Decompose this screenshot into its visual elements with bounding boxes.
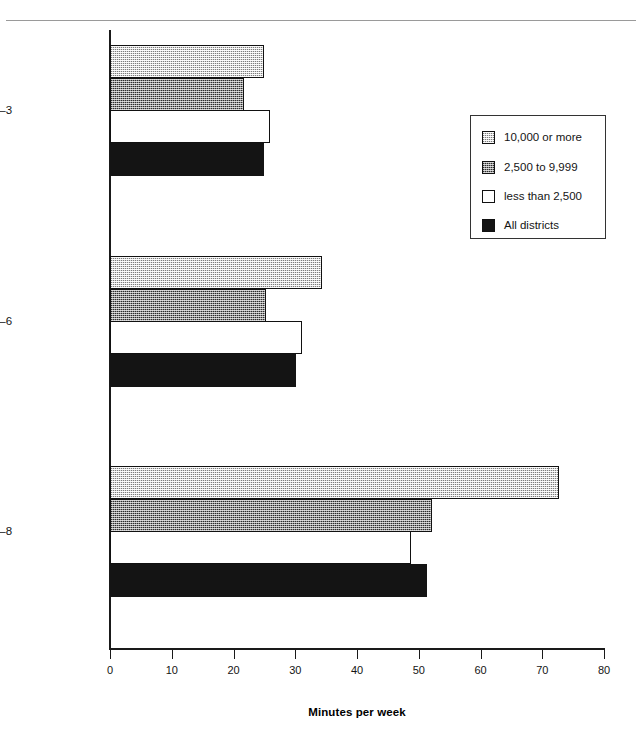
bar-grades-4-6-all-districts [110,354,296,387]
x-tick-60 [481,650,482,659]
bar-grades-7-8-10000-or-more [110,466,559,499]
x-tick-label-0: 0 [90,664,130,677]
x-tick-label-20: 20 [214,664,254,677]
legend-label-10000-or-more: 10,000 or more [504,131,582,144]
legend-swatch-less-than-2500 [482,190,495,203]
bar-grades-4-6-less-than-2500 [110,321,302,354]
legend-label-all-districts: All districts [504,219,559,232]
bar-grades-4-6-10000-or-more [110,256,322,289]
x-tick-40 [357,650,358,659]
bar-grades-4-6-2500-to-9999 [110,289,266,322]
x-tick-label-50: 50 [399,664,439,677]
x-tick-label-40: 40 [337,664,377,677]
bar-grades-7-8-less-than-2500 [110,531,411,564]
category-label-grades-1-3: Grades 1–3 [0,103,82,117]
bar-grades-1-3-all-districts [110,143,264,176]
x-tick-label-10: 10 [152,664,192,677]
x-tick-80 [604,650,605,659]
x-tick-70 [542,650,543,659]
legend-item-less-than-2500: less than 2,500 [482,188,582,204]
x-tick-30 [295,650,296,659]
header-divider [6,20,636,21]
x-tick-label-80: 80 [584,664,624,677]
x-tick-0 [110,650,111,659]
legend-item-all-districts: All districts [482,217,559,233]
bar-grades-7-8-2500-to-9999 [110,499,432,532]
bar-grades-7-8-all-districts [110,564,427,597]
legend-item-10000-or-more: 10,000 or more [482,129,582,145]
x-axis-title: Minutes per week [110,706,604,718]
category-label-grades-4-6: Grades 4–6 [0,314,82,328]
legend-swatch-10000-or-more [482,131,495,144]
bar-grades-1-3-10000-or-more [110,45,264,78]
x-tick-label-60: 60 [461,664,501,677]
x-tick-label-70: 70 [522,664,562,677]
legend-label-less-than-2500: less than 2,500 [504,190,582,203]
legend: 10,000 or more 2,500 to 9,999 less than … [470,115,606,239]
x-tick-20 [234,650,235,659]
legend-item-2500-to-9999: 2,500 to 9,999 [482,159,578,175]
legend-label-2500-to-9999: 2,500 to 9,999 [504,161,578,174]
legend-swatch-2500-to-9999 [482,161,495,174]
x-tick-50 [419,650,420,659]
x-tick-label-30: 30 [275,664,315,677]
category-label-grades-7-8: Grades 7–8 [0,524,82,538]
legend-swatch-all-districts [482,219,495,232]
bar-grades-1-3-less-than-2500 [110,110,270,143]
bar-grades-1-3-2500-to-9999 [110,78,244,111]
x-tick-10 [172,650,173,659]
bar-chart-figure: Grades 1–3 Grades 4–6 Grades 7–8 0 10 20… [0,0,642,739]
